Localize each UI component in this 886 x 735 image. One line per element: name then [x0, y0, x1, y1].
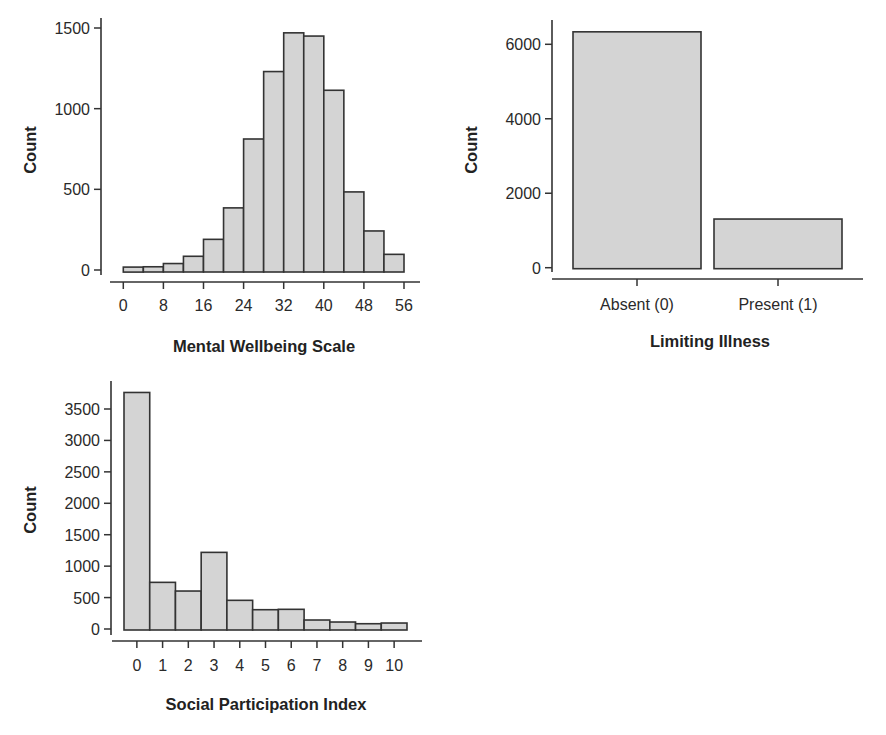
y-tick-label: 2000 — [505, 185, 541, 202]
x-tick-label: 24 — [235, 297, 253, 314]
category-bar — [278, 609, 304, 630]
figure-canvas: 050010001500 08162432404856 Mental Wellb… — [0, 0, 886, 735]
x-tick-label: Present (1) — [738, 296, 817, 313]
y-tick-label: 1500 — [54, 20, 90, 37]
x-tick-label: 48 — [355, 297, 373, 314]
participation-bar-panel: 0500100015002000250030003500 01234567891… — [21, 381, 422, 713]
category-bar — [124, 392, 150, 630]
x-axis-title: Mental Wellbeing Scale — [173, 337, 355, 355]
y-axis-title: Count — [21, 126, 39, 174]
y-tick-label: 1500 — [64, 527, 100, 544]
y-tick-label: 3000 — [64, 432, 100, 449]
x-tick-label: 40 — [315, 297, 333, 314]
y-ticks: 050010001500 — [54, 20, 101, 279]
histogram-bar — [143, 267, 163, 272]
wellbeing-histogram-panel: 050010001500 08162432404856 Mental Wellb… — [21, 18, 420, 355]
x-tick-label: 8 — [159, 297, 168, 314]
x-tick-label: 8 — [338, 657, 347, 674]
x-tick-label: 2 — [184, 657, 193, 674]
x-tick-label: 6 — [287, 657, 296, 674]
x-tick-label: 56 — [395, 297, 413, 314]
category-bar — [253, 610, 279, 630]
y-tick-label: 0 — [81, 262, 90, 279]
x-tick-label: 16 — [195, 297, 213, 314]
histogram-bar — [224, 208, 244, 272]
histogram-bar — [364, 231, 384, 272]
x-tick-label: 1 — [158, 657, 167, 674]
y-tick-label: 1000 — [64, 558, 100, 575]
x-axis-title: Limiting Illness — [650, 332, 770, 350]
x-tick-label: 4 — [235, 657, 244, 674]
y-tick-label: 0 — [91, 621, 100, 638]
category-bar — [356, 624, 382, 630]
bars — [123, 33, 404, 272]
histogram-bar — [344, 192, 364, 272]
histogram-bar — [163, 264, 183, 272]
x-tick-label: 5 — [261, 657, 270, 674]
bars — [573, 32, 842, 269]
histogram-bar — [284, 33, 304, 272]
histogram-bar — [264, 72, 284, 272]
category-bar — [714, 219, 842, 269]
histogram-bar — [123, 267, 143, 272]
category-bar — [304, 620, 330, 630]
category-bar — [330, 622, 356, 630]
y-tick-label: 0 — [532, 260, 541, 277]
y-tick-label: 2000 — [64, 495, 100, 512]
x-tick-label: 7 — [313, 657, 322, 674]
y-axis-title: Count — [462, 126, 480, 174]
category-bar — [381, 623, 407, 630]
x-ticks: Absent (0)Present (1) — [600, 279, 817, 313]
histogram-bar — [304, 36, 324, 272]
y-tick-label: 500 — [73, 590, 100, 607]
category-bar — [573, 32, 701, 269]
x-tick-label: 32 — [275, 297, 293, 314]
histogram-bar — [183, 256, 203, 272]
x-ticks: 012345678910 — [132, 641, 403, 674]
y-tick-label: 4000 — [505, 111, 541, 128]
category-bar — [227, 600, 253, 630]
x-tick-label: 0 — [119, 297, 128, 314]
y-tick-label: 6000 — [505, 36, 541, 53]
histogram-bar — [204, 239, 224, 272]
histogram-bar — [384, 254, 404, 272]
x-tick-label: 9 — [364, 657, 373, 674]
y-tick-label: 1000 — [54, 101, 90, 118]
category-bar — [201, 552, 227, 630]
y-ticks: 0200040006000 — [505, 36, 552, 276]
bars — [124, 392, 407, 630]
y-ticks: 0500100015002000250030003500 — [64, 401, 111, 638]
histogram-bar — [244, 139, 264, 272]
y-tick-label: 3500 — [64, 401, 100, 418]
illness-bar-panel: 0200040006000 Absent (0)Present (1) Limi… — [462, 20, 863, 350]
x-tick-label: 3 — [210, 657, 219, 674]
histogram-bar — [324, 90, 344, 272]
category-bar — [175, 591, 201, 630]
category-bar — [150, 582, 176, 630]
y-axis-title: Count — [21, 486, 39, 534]
x-tick-label: Absent (0) — [600, 296, 674, 313]
x-tick-label: 10 — [385, 657, 403, 674]
y-tick-label: 2500 — [64, 464, 100, 481]
x-axis-title: Social Participation Index — [166, 695, 368, 713]
x-ticks: 08162432404856 — [119, 282, 413, 314]
y-tick-label: 500 — [63, 181, 90, 198]
x-tick-label: 0 — [132, 657, 141, 674]
